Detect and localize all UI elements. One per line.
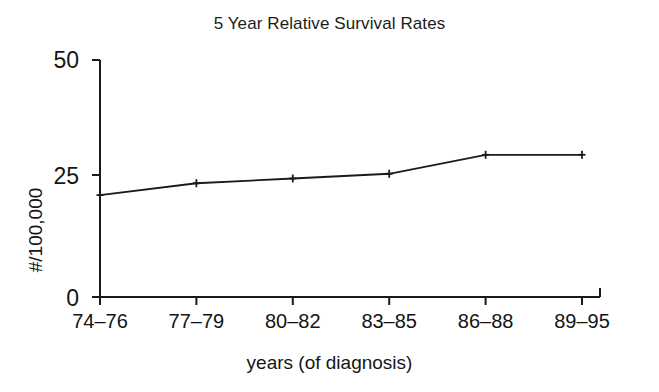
series-line-survival-rate [100,155,582,195]
x-tick-label: 89–95 [554,310,610,333]
x-tick-label: 80–82 [265,310,321,333]
x-tick-label: 83–85 [361,310,417,333]
x-tick-label: 86–88 [458,310,514,333]
y-tick-label-25: 25 [53,163,79,189]
x-axis-ticks [100,297,582,305]
y-axis-label: #/100,000 [25,188,46,273]
y-tick-label-50: 50 [53,47,79,73]
x-axis-label: years (of diagnosis) [0,352,659,374]
x-tick-label: 74–76 [72,310,128,333]
line-chart-plot: #/100,000 50 25 0 [0,0,659,392]
series-markers [97,151,586,199]
x-tick-label: 77–79 [169,310,225,333]
chart-figure: 5 Year Relative Survival Rates #/100,000… [0,0,659,392]
y-tick-label-0: 0 [66,285,79,311]
